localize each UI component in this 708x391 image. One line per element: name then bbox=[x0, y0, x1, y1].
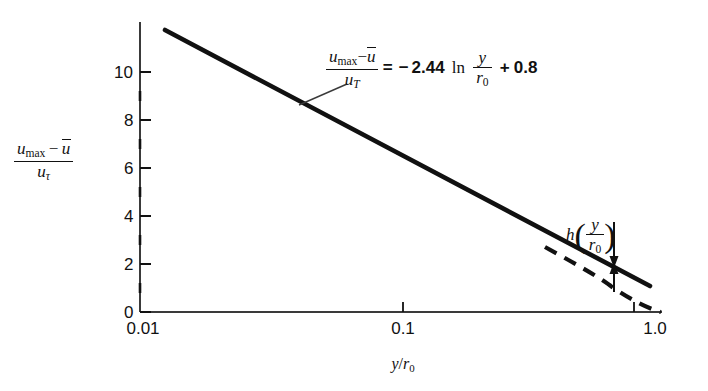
y-label-minus: − bbox=[49, 139, 59, 158]
h-function-annotation: h( y r0 ) bbox=[566, 216, 616, 256]
equation-annotation: umax−u uT =−2.44ln y r0 +0.8 bbox=[326, 48, 537, 91]
x-axis-ticks bbox=[403, 302, 634, 312]
y-axis-label-fraction: umax − u uτ bbox=[14, 140, 73, 183]
y-axis-label-denominator: uτ bbox=[14, 162, 73, 183]
velocity-defect-law-chart: 0 2 4 6 8 10 0.01 0.1 1.0 umax − u uτ y/… bbox=[0, 0, 708, 391]
y-label-u-bar: u bbox=[62, 140, 71, 157]
h-close-paren: ) bbox=[604, 217, 615, 254]
x-label-zero-subscript: 0 bbox=[409, 362, 414, 374]
eq-u-bar: u bbox=[367, 48, 376, 65]
h-arg-denominator: r0 bbox=[586, 235, 604, 256]
y-tick-label-10: 10 bbox=[114, 64, 133, 81]
h-argument-fraction: y r0 bbox=[586, 216, 604, 256]
h-arg-zero-subscript: 0 bbox=[595, 243, 601, 256]
actual-profile-dashed-line bbox=[545, 247, 661, 312]
y-axis-ticks bbox=[140, 72, 151, 312]
h-arg-numerator: y bbox=[586, 216, 604, 235]
eq-tau-subscript: T bbox=[353, 78, 359, 91]
y-tick-label-4: 4 bbox=[124, 208, 133, 225]
eq-arg-y: y bbox=[479, 48, 487, 67]
eq-equals-sign: = bbox=[383, 58, 393, 77]
equation-arg-numerator: y bbox=[473, 49, 491, 68]
x-tick-label-0.1: 0.1 bbox=[391, 320, 415, 337]
equation-lhs-denominator: uT bbox=[326, 70, 378, 91]
eq-constant: 0.8 bbox=[514, 58, 538, 77]
eq-den-u: u bbox=[345, 70, 354, 89]
equation-lhs-numerator: umax−u bbox=[326, 48, 378, 70]
equation-argument-fraction: y r0 bbox=[473, 49, 491, 89]
y-label-den-u: u bbox=[37, 162, 46, 181]
h-open-paren: ( bbox=[575, 217, 586, 254]
x-tick-label-0.01: 0.01 bbox=[126, 320, 159, 337]
eq-max-subscript: max bbox=[338, 55, 358, 68]
y-label-max-subscript: max bbox=[26, 147, 46, 160]
y-tick-label-2: 2 bbox=[124, 256, 133, 273]
eq-ln-operator: ln bbox=[452, 58, 465, 77]
h-arg-y: y bbox=[591, 215, 599, 234]
y-tick-label-6: 6 bbox=[124, 160, 133, 177]
x-tick-label-1.0: 1.0 bbox=[643, 320, 667, 337]
y-label-u: u bbox=[17, 139, 26, 158]
eq-minus: − bbox=[357, 47, 367, 66]
equation-arg-denominator: r0 bbox=[473, 68, 491, 89]
eq-arg-r: r bbox=[476, 68, 483, 87]
y-axis-label-numerator: umax − u bbox=[14, 140, 73, 162]
eq-u: u bbox=[329, 47, 338, 66]
equation-lhs-fraction: umax−u uT bbox=[326, 48, 378, 91]
y-label-tau-subscript: τ bbox=[46, 170, 50, 183]
y-axis-label: umax − u uτ bbox=[14, 140, 73, 183]
y-tick-label-8: 8 bbox=[124, 112, 133, 129]
eq-negative-sign: − bbox=[399, 58, 409, 77]
h-function-name: h bbox=[566, 225, 575, 244]
eq-plus-sign: + bbox=[500, 58, 510, 77]
x-axis-label: y/r0 bbox=[391, 356, 414, 374]
eq-coefficient: 2.44 bbox=[412, 58, 445, 77]
eq-arg-zero-subscript: 0 bbox=[483, 77, 489, 90]
